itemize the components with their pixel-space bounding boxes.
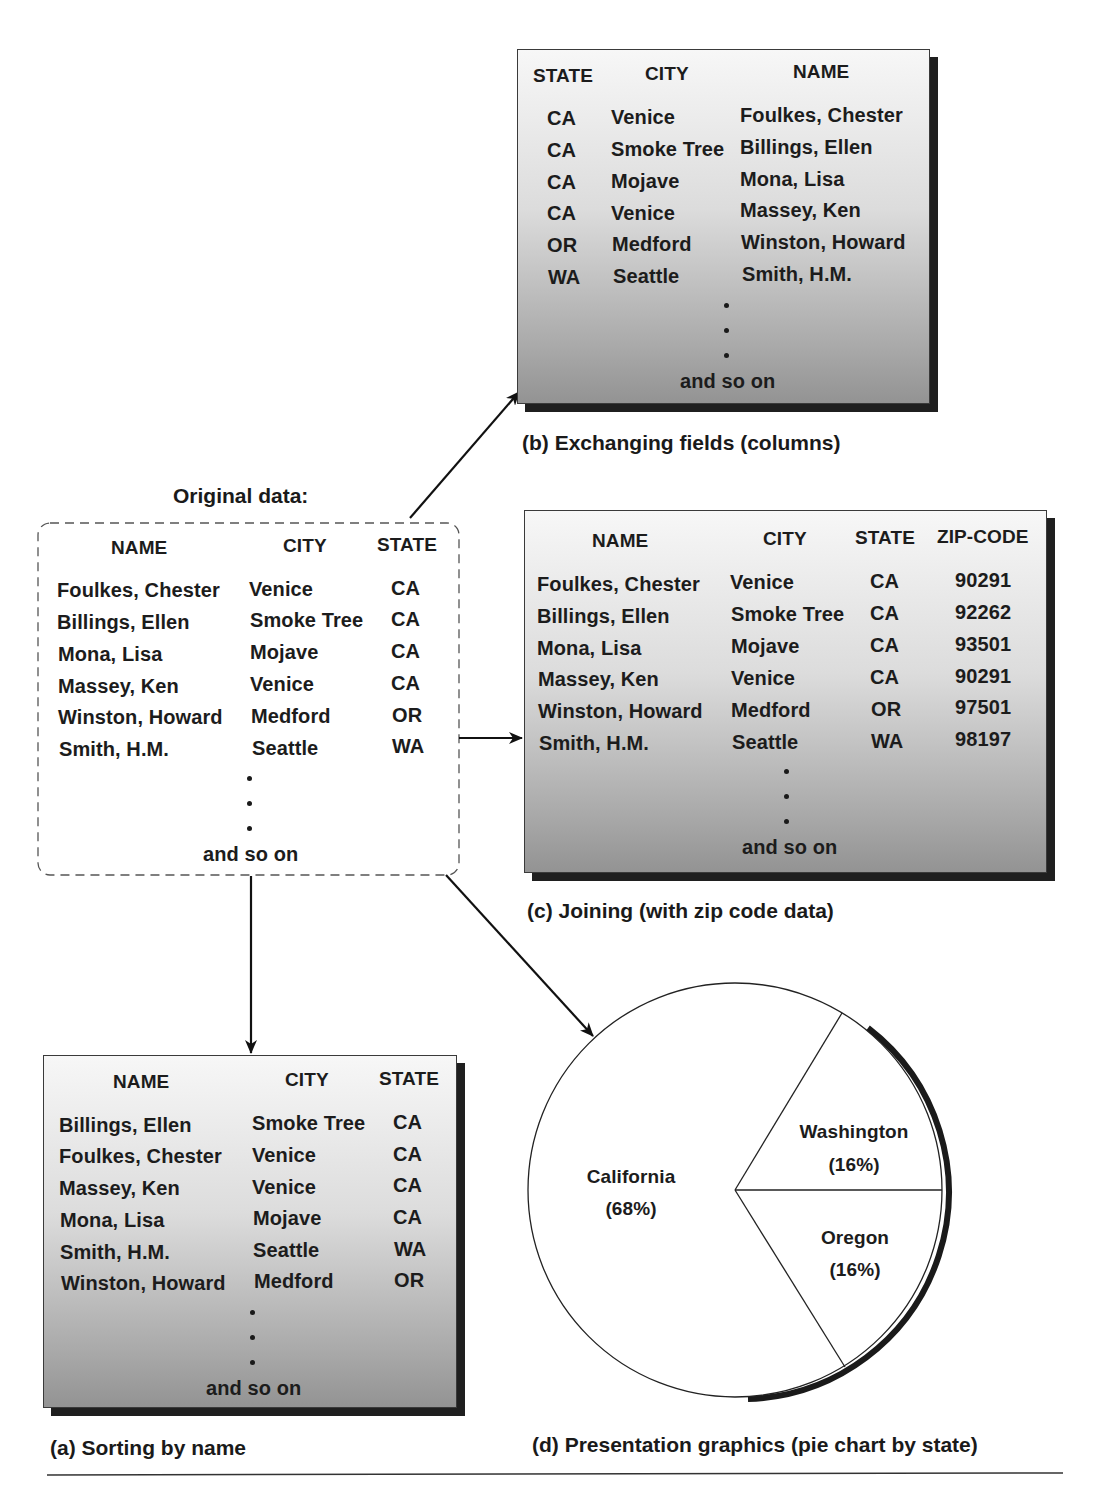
cell-name: Mona, Lisa <box>740 167 844 191</box>
cell-city: Venice <box>249 577 313 601</box>
cell-state: CA <box>870 665 899 689</box>
cell-state: OR <box>871 697 901 721</box>
cell-state: CA <box>391 576 420 600</box>
header-city: CITY <box>283 534 327 558</box>
and-so-on: and so on <box>742 835 837 859</box>
pie-label-washington: Washington <box>800 1120 909 1144</box>
cell-city: Mojave <box>250 640 318 664</box>
cell-zip: 98197 <box>955 727 1011 751</box>
cell-name: Foulkes, Chester <box>537 572 700 596</box>
cell-zip: 92262 <box>955 600 1011 624</box>
cell-city: Smoke Tree <box>250 608 363 632</box>
ellipsis-dot <box>724 353 729 358</box>
cell-name: Mona, Lisa <box>537 636 641 660</box>
cell-city: Venice <box>731 666 795 690</box>
cell-name: Mona, Lisa <box>58 642 162 666</box>
cell-name: Billings, Ellen <box>740 135 873 159</box>
pie-chart <box>528 983 949 1399</box>
cell-state: WA <box>548 265 580 289</box>
cell-name: Smith, H.M. <box>742 262 852 286</box>
cell-name: Smith, H.M. <box>59 737 169 761</box>
ellipsis-dot <box>247 801 252 806</box>
cell-name: Massey, Ken <box>538 667 659 691</box>
cell-city: Mojave <box>611 169 679 193</box>
cell-city: Smoke Tree <box>731 602 844 626</box>
caption-exchanging: (b) Exchanging fields (columns) <box>522 431 841 455</box>
cell-name: Winston, Howard <box>538 699 703 723</box>
cell-state: CA <box>870 633 899 657</box>
cell-city: Smoke Tree <box>611 137 724 161</box>
ellipsis-dot <box>250 1360 255 1365</box>
and-so-on: and so on <box>206 1376 301 1400</box>
cell-state: CA <box>547 201 576 225</box>
arrow-to-exchanging <box>410 392 519 518</box>
cell-state: CA <box>547 106 576 130</box>
cell-name: Foulkes, Chester <box>59 1144 222 1168</box>
cell-name: Winston, Howard <box>58 705 223 729</box>
cell-city: Venice <box>730 570 794 594</box>
header-city: CITY <box>763 527 807 551</box>
ellipsis-dot <box>724 328 729 333</box>
and-so-on: and so on <box>680 369 775 393</box>
header-zip-code: ZIP-CODE <box>937 525 1029 549</box>
and-so-on: and so on <box>203 842 298 866</box>
cell-name: Billings, Ellen <box>59 1113 192 1137</box>
header-state: STATE <box>377 533 437 557</box>
cell-state: CA <box>391 639 420 663</box>
cell-zip: 93501 <box>955 632 1011 656</box>
cell-city: Mojave <box>731 634 799 658</box>
pie-label-california: California <box>587 1165 676 1189</box>
caption-joining: (c) Joining (with zip code data) <box>527 899 834 923</box>
ellipsis-dot <box>250 1310 255 1315</box>
cell-name: Smith, H.M. <box>60 1240 170 1264</box>
header-state: STATE <box>533 64 593 88</box>
cell-city: Venice <box>252 1175 316 1199</box>
cell-state: CA <box>393 1205 422 1229</box>
cell-name: Massey, Ken <box>58 674 179 698</box>
cell-city: Venice <box>611 105 675 129</box>
cell-state: CA <box>393 1173 422 1197</box>
header-name: NAME <box>111 536 167 560</box>
pie-pct-california: (68%) <box>605 1197 656 1221</box>
cell-state: OR <box>547 233 577 257</box>
pie-pct-oregon: (16%) <box>829 1258 880 1282</box>
cell-state: CA <box>547 138 576 162</box>
cell-name: Billings, Ellen <box>57 610 190 634</box>
ellipsis-dot <box>784 794 789 799</box>
cell-state: CA <box>870 601 899 625</box>
original-data-title: Original data: <box>173 484 308 508</box>
caption-pie: (d) Presentation graphics (pie chart by … <box>532 1433 978 1457</box>
cell-state: OR <box>394 1268 424 1292</box>
header-state: STATE <box>855 526 915 550</box>
cell-name: Billings, Ellen <box>537 604 670 628</box>
ellipsis-dot <box>247 776 252 781</box>
cell-state: OR <box>392 703 422 727</box>
cell-city: Smoke Tree <box>252 1111 365 1135</box>
cell-state: CA <box>547 170 576 194</box>
cell-state: CA <box>391 607 420 631</box>
pie-pct-washington: (16%) <box>828 1153 879 1177</box>
header-state: STATE <box>379 1067 439 1091</box>
cell-state: CA <box>391 671 420 695</box>
pie-label-oregon: Oregon <box>821 1226 889 1250</box>
cell-city: Medford <box>731 698 811 722</box>
cell-city: Seattle <box>252 736 318 760</box>
cell-city: Mojave <box>253 1206 321 1230</box>
ellipsis-dot <box>724 303 729 308</box>
cell-state: WA <box>394 1237 426 1261</box>
cell-state: WA <box>871 729 903 753</box>
ellipsis-dot <box>247 826 252 831</box>
cell-city: Seattle <box>253 1238 319 1262</box>
header-name: NAME <box>793 60 849 84</box>
cell-city: Medford <box>251 704 331 728</box>
cell-city: Seattle <box>732 730 798 754</box>
cell-city: Venice <box>252 1143 316 1167</box>
bottom-rule <box>47 1473 1063 1475</box>
caption-sorting: (a) Sorting by name <box>50 1436 246 1460</box>
cell-name: Winston, Howard <box>741 230 906 254</box>
cell-city: Medford <box>254 1269 334 1293</box>
header-name: NAME <box>592 529 648 553</box>
cell-state: CA <box>870 569 899 593</box>
cell-name: Foulkes, Chester <box>740 103 903 127</box>
cell-name: Mona, Lisa <box>60 1208 164 1232</box>
